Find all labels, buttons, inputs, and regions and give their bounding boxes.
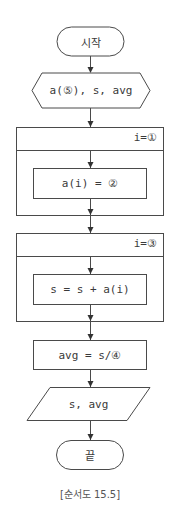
loop2-header-label: i=③ [100, 237, 157, 250]
loop1-body-label: a(i) = ② [33, 168, 147, 199]
declare-label: a(⑤), s, avg [32, 73, 150, 108]
start-label: 시작 [57, 27, 124, 56]
arrowhead-icon [88, 227, 94, 233]
loop1-header-label: i=① [100, 131, 157, 144]
arrowhead-icon [88, 121, 94, 127]
output-label: s, avg [27, 387, 150, 421]
loop2-body-label: s = s + a(i) [33, 274, 147, 305]
figure-caption: [순서도 15.5] [0, 486, 180, 501]
end-label: 끝 [56, 440, 124, 470]
compute-label: avg = s/④ [33, 340, 147, 370]
